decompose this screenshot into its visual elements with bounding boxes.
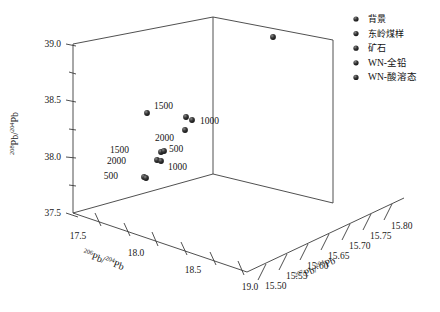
y-axis-title-base2: Pb bbox=[9, 112, 20, 123]
data-points: 150010002000150050020001000500 bbox=[104, 34, 276, 181]
data-point[interactable] bbox=[183, 114, 189, 120]
data-point[interactable] bbox=[161, 148, 167, 154]
legend-marker-4 bbox=[353, 60, 358, 65]
data-point-label: 1500 bbox=[154, 101, 173, 111]
z-tick-label: 15.70 bbox=[349, 241, 371, 251]
x-axis-title-base2: Pb bbox=[112, 258, 126, 272]
x-axis-title-base: Pb/ bbox=[90, 251, 106, 266]
data-point-label: 500 bbox=[104, 171, 119, 181]
svg-text:208Pb/204Pb: 208Pb/204Pb bbox=[8, 112, 20, 155]
data-point-label: 2000 bbox=[107, 156, 126, 166]
chart-root: 39.0 38.5 38.0 37.5 17.5 18.0 18.5 19.0 … bbox=[0, 0, 440, 312]
x-tick-label: 17.5 bbox=[70, 231, 87, 241]
data-point-label: 1000 bbox=[200, 116, 219, 126]
y-axis-tick-labels: 39.0 38.5 38.0 37.5 bbox=[44, 39, 61, 218]
legend-item-label[interactable]: WN-全铅 bbox=[368, 57, 407, 68]
x-tick-label: 19.0 bbox=[242, 282, 259, 292]
y-axis-title: 208Pb/204Pb bbox=[8, 112, 20, 155]
data-point[interactable] bbox=[158, 158, 164, 164]
y-tick-label: 37.5 bbox=[44, 208, 61, 218]
data-point[interactable] bbox=[270, 34, 276, 40]
y-axis-ticks bbox=[66, 44, 78, 217]
legend-marker-2 bbox=[353, 31, 358, 36]
legend: 背景东岭煤样矿石WN-全铅WN-酸溶态 bbox=[353, 13, 417, 82]
data-point-label: 2000 bbox=[155, 133, 174, 143]
data-point-label: 1000 bbox=[168, 162, 187, 172]
y-axis-title-base: Pb/ bbox=[9, 132, 20, 146]
y-tick-label: 38.0 bbox=[44, 152, 61, 162]
x-axis-title: 206Pb/204Pb bbox=[81, 247, 126, 272]
x-tick-label: 18.5 bbox=[185, 265, 202, 275]
y-axis-title-sup: 208 bbox=[8, 145, 15, 155]
data-point[interactable] bbox=[182, 127, 188, 133]
legend-item-label[interactable]: 背景 bbox=[368, 13, 386, 24]
pb-isotope-3d-scatter: 39.0 38.5 38.0 37.5 17.5 18.0 18.5 19.0 … bbox=[0, 0, 440, 312]
data-point-label: 500 bbox=[169, 144, 184, 154]
data-point[interactable] bbox=[144, 110, 150, 116]
data-point[interactable] bbox=[143, 175, 149, 181]
y-tick-label: 39.0 bbox=[44, 39, 61, 49]
legend-item-label[interactable]: 东岭煤样 bbox=[368, 28, 404, 39]
x-tick-label: 18.0 bbox=[128, 248, 145, 258]
svg-text:206Pb/204Pb: 206Pb/204Pb bbox=[81, 247, 126, 272]
legend-marker-5 bbox=[353, 75, 358, 80]
z-axis-tick-labels: 15.50 15.55 15.60 15.65 15.70 15.75 15.8… bbox=[265, 221, 413, 291]
legend-item-label[interactable]: WN-酸溶态 bbox=[368, 71, 417, 82]
z-tick-label: 15.50 bbox=[265, 281, 287, 291]
y-tick-label: 38.5 bbox=[44, 95, 61, 105]
z-tick-label: 15.75 bbox=[370, 231, 392, 241]
data-point[interactable] bbox=[189, 117, 195, 123]
data-point-label: 1500 bbox=[110, 145, 129, 155]
legend-marker-3 bbox=[353, 46, 358, 51]
legend-item-label[interactable]: 矿石 bbox=[368, 42, 386, 53]
z-tick-label: 15.80 bbox=[391, 221, 413, 231]
legend-marker-1 bbox=[353, 16, 358, 21]
